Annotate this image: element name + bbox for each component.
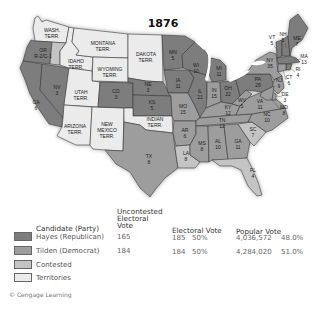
label-de-2: 3	[284, 97, 287, 103]
state-or	[23, 40, 52, 64]
label-wy-2: TERR.	[103, 72, 118, 78]
swatch-democrat	[14, 246, 32, 255]
swatch-republican	[14, 232, 32, 241]
label-ma-2: 13	[301, 59, 307, 65]
label-ga-2: 11	[235, 144, 240, 150]
label-co-2: 3	[115, 94, 118, 100]
label-pa-2: 29	[255, 82, 261, 88]
label-ne-2: 3	[147, 87, 150, 93]
label-nh-2: 5	[282, 37, 285, 43]
label-ky-2: 12	[225, 110, 231, 116]
label-mi-2: 11	[216, 71, 221, 77]
label-al-2: 10	[215, 144, 221, 150]
header-uncontested-line3: Vote	[117, 222, 163, 229]
label-contested: Contested	[36, 261, 72, 269]
label-ny-2: 35	[267, 63, 273, 69]
label-nj-2: 9	[278, 83, 281, 89]
label-ca-2: 6	[35, 105, 38, 111]
label-oh-2: 22	[225, 91, 231, 97]
label-hayes: Hayes (Republican)	[36, 233, 104, 241]
label-ia-2: 11	[175, 83, 180, 89]
label-nv-2: 3	[56, 90, 59, 96]
legend-row-tilden: Tilden (Democrat)	[14, 245, 99, 256]
label-sc-2: 7	[252, 132, 255, 138]
label-tx-2: 8	[148, 159, 151, 165]
label-or-2: R-2/C-1	[34, 53, 52, 59]
legend-row-contested: Contested	[14, 259, 72, 270]
label-md-2: 8	[283, 110, 286, 116]
label-ri-2: 4	[297, 72, 300, 78]
label-ar-2: 6	[184, 133, 187, 139]
label-id-2: TERR.	[69, 64, 84, 70]
label-az-2: TERR.	[68, 129, 83, 135]
label-dk-2: TERR.	[139, 57, 154, 63]
map-title: 1876	[148, 17, 179, 30]
label-me-2: 7	[296, 41, 299, 47]
swatch-contested	[14, 260, 32, 269]
label-ms-2: 8	[201, 146, 204, 152]
swatch-territories	[14, 273, 32, 282]
label-mt-2: TERR.	[96, 46, 111, 52]
state-ma	[277, 56, 300, 64]
label-wv-2: 5	[241, 103, 244, 109]
tilden-ev: 184	[172, 248, 185, 256]
tilden-pv-pct: 51.0%	[281, 248, 303, 256]
header-electoral-vote: Electoral Vote	[172, 227, 222, 234]
tilden-ev-pct: 50%	[192, 248, 208, 256]
hayes-uncontested: 165	[117, 233, 130, 241]
label-in-2: 15	[211, 93, 217, 99]
state-fl	[212, 158, 262, 196]
label-territories: Territories	[36, 274, 71, 282]
label-ks-2: 5	[151, 105, 154, 111]
credit: © Cengage Learning	[9, 291, 72, 298]
tilden-pv: 4,284,020	[236, 248, 272, 256]
hayes-ev: 185	[172, 234, 185, 242]
label-ut-2: TERR.	[74, 95, 89, 101]
hayes-pv-pct: 48.0%	[281, 234, 303, 242]
label-va-2: 11	[257, 104, 262, 110]
state-ct	[278, 64, 286, 72]
label-wa-2: TERR.	[45, 33, 60, 39]
election-map-1876: 1876	[0, 0, 326, 205]
label-tilden: Tilden (Democrat)	[36, 247, 99, 255]
label-mo-2: 15	[180, 109, 186, 115]
label-la-2: 8	[185, 156, 188, 162]
label-tn-2: 12	[219, 123, 225, 129]
label-vt-2: 5	[271, 40, 274, 46]
label-it-2: TERR.	[148, 122, 163, 128]
header-uncontested: Uncontested Electoral Vote	[117, 208, 163, 229]
label-ct-2: 6	[288, 80, 291, 86]
label-nm-3: TERR.	[100, 133, 115, 139]
label-mn-2: 5	[172, 55, 175, 61]
tilden-uncontested: 184	[117, 247, 130, 255]
label-il-2: 21	[197, 94, 203, 100]
label-fl-2: 4	[252, 173, 255, 179]
label-wi-2: 10	[193, 68, 199, 74]
legend-row-hayes: Hayes (Republican)	[14, 231, 104, 242]
hayes-ev-pct: 50%	[192, 234, 208, 242]
hayes-pv: 4,036,572	[236, 234, 272, 242]
legend-row-territories: Territories	[14, 272, 71, 283]
label-nc-2: 10	[264, 117, 270, 123]
